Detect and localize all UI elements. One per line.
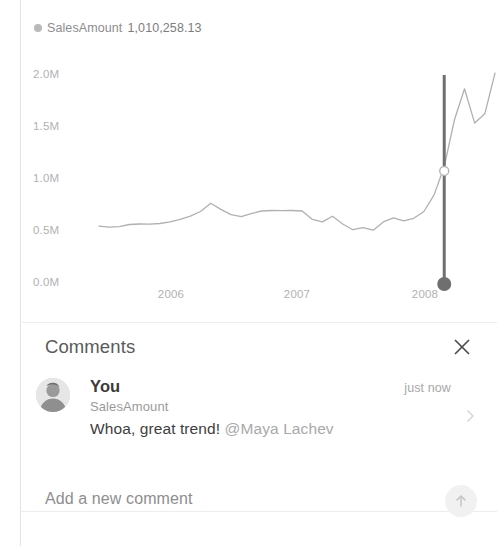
avatar: [36, 378, 70, 412]
x-axis-tick-2006: 2006: [158, 288, 184, 300]
tooltip-annotation: [437, 75, 451, 291]
new-comment-row: [21, 464, 497, 546]
chart-legend: SalesAmount 1,010,258.13: [34, 21, 202, 35]
comment-author: You: [90, 377, 120, 396]
legend-series-value: 1,010,258.13: [127, 21, 201, 35]
chart-svg: [21, 55, 497, 300]
comments-panel: Comments You just now SalesAmount: [21, 323, 497, 546]
comment-mention: @Maya Lachev: [225, 420, 334, 437]
comments-title: Comments: [45, 336, 135, 358]
legend-marker-icon: [34, 24, 42, 32]
chart-plot-area[interactable]: [21, 55, 497, 300]
comment-timestamp: just now: [404, 381, 451, 395]
chart-panel: SalesAmount 1,010,258.13 2.0M 1.5M 1.0M …: [21, 0, 497, 323]
comments-chart-panel: SalesAmount 1,010,258.13 2.0M 1.5M 1.0M …: [0, 0, 497, 546]
comment-body-text: Whoa, great trend!: [90, 420, 225, 437]
comment-body: Whoa, great trend! @Maya Lachev: [90, 420, 334, 438]
new-comment-input[interactable]: [45, 490, 425, 508]
x-axis-tick-2007: 2007: [284, 288, 310, 300]
series-line-SalesAmount: [99, 73, 495, 230]
list-item[interactable]: You just now SalesAmount Whoa, great tre…: [21, 371, 497, 453]
user-photo-avatar-icon: [36, 378, 70, 412]
x-axis-tick-2008: 2008: [412, 288, 438, 300]
chevron-right-icon[interactable]: [463, 409, 477, 423]
send-comment-button[interactable]: [445, 485, 477, 517]
comment-measure: SalesAmount: [90, 399, 168, 414]
comments-header: Comments: [21, 323, 497, 371]
arrow-up-icon: [453, 493, 469, 509]
close-icon-glyph: [452, 337, 472, 357]
chevron-right-icon-glyph: [463, 409, 477, 423]
close-icon[interactable]: [449, 334, 475, 360]
legend-series-name: SalesAmount: [47, 21, 122, 35]
